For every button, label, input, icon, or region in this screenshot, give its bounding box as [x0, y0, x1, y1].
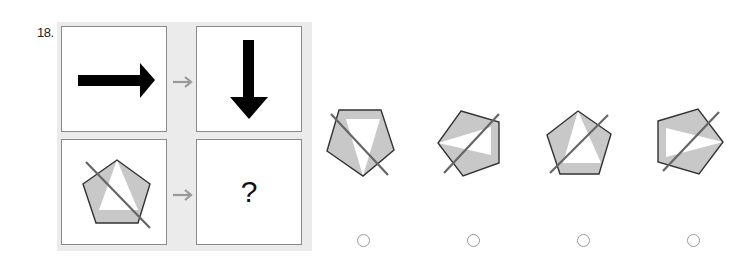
option-1-radio[interactable]	[357, 234, 370, 247]
option-4[interactable]	[648, 100, 738, 240]
option-2-figure-icon	[428, 100, 518, 190]
panel-top-right	[196, 26, 302, 132]
unknown-answer-mark: ?	[197, 140, 301, 244]
option-3-radio[interactable]	[577, 234, 590, 247]
panel-top-left	[61, 26, 167, 132]
transition-arrow-icon	[172, 75, 194, 89]
option-2[interactable]	[428, 100, 518, 240]
arrow-right-icon	[62, 27, 168, 133]
option-4-radio[interactable]	[687, 234, 700, 247]
panel-bottom-right: ?	[196, 139, 302, 245]
question-number: 18.	[37, 25, 54, 40]
transition-arrow-icon	[172, 188, 194, 202]
option-4-figure-icon	[648, 100, 738, 190]
option-3[interactable]	[538, 100, 628, 240]
option-2-radio[interactable]	[467, 234, 480, 247]
panel-bottom-left	[61, 139, 167, 245]
option-1-figure-icon	[318, 100, 408, 190]
pentagon-figure-icon	[62, 140, 168, 246]
option-3-figure-icon	[538, 100, 628, 190]
arrow-down-icon	[197, 27, 303, 133]
option-1[interactable]	[318, 100, 408, 240]
